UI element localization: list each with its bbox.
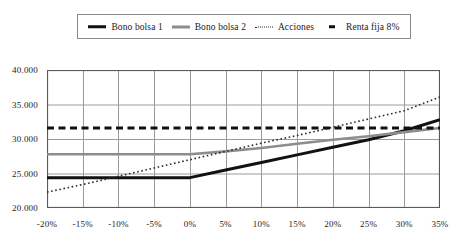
x-axis-tick-label: -5% xyxy=(146,219,162,229)
x-axis-tick-label: -20% xyxy=(37,219,57,229)
x-axis-tick-label: 5% xyxy=(219,219,231,229)
plot-area xyxy=(47,70,440,208)
x-axis-tick-label: 15% xyxy=(289,219,306,229)
x-axis-tick-label: 30% xyxy=(396,219,413,229)
chart-container: Bono bolsa 1 Bono bolsa 2 Acciones Renta… xyxy=(0,0,456,251)
x-axis-tick-label: 35% xyxy=(431,219,448,229)
x-axis-tick-label: 10% xyxy=(253,219,270,229)
x-axis-tick-label: -15% xyxy=(73,219,93,229)
series-line-bono-bolsa-2 xyxy=(47,128,440,154)
chart-plot xyxy=(47,70,440,208)
x-axis-tick-label: 0% xyxy=(184,219,196,229)
x-axis-tick-label: -10% xyxy=(108,219,128,229)
x-axis-tick-label: 20% xyxy=(324,219,341,229)
x-axis-tick-label: 25% xyxy=(360,219,377,229)
